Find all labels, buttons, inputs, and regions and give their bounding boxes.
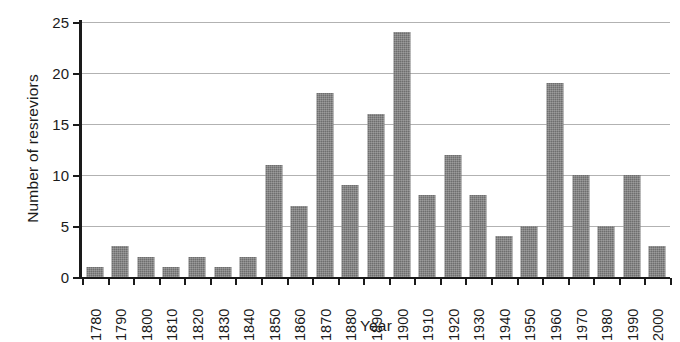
y-axis-title: Number of resreviors [22,6,44,291]
bar [470,195,487,277]
x-axis-title: Year [82,317,670,335]
bar [316,93,333,277]
x-axis-line [79,277,670,279]
bar [623,175,640,277]
bar [112,246,129,277]
bar [163,267,180,277]
y-tick-mark [73,277,80,279]
x-tick-mark [670,278,672,285]
x-tick-mark [465,278,467,285]
x-tick-mark [108,278,110,285]
x-tick-mark [414,278,416,285]
x-tick-mark [210,278,212,285]
x-tick-mark [287,278,289,285]
x-tick-mark [82,278,84,285]
y-tick-mark [73,226,80,228]
x-tick-mark [542,278,544,285]
x-tick-mark [568,278,570,285]
bar-slot [619,22,645,277]
bar-slot [82,22,108,277]
y-tick-label: 25 [9,15,69,30]
x-tick-mark [159,278,161,285]
x-tick-mark [338,278,340,285]
bar-slot [491,22,517,277]
bar [521,226,538,277]
bar [86,267,103,277]
bar-slot [261,22,287,277]
x-tick-mark [517,278,519,285]
bar-slot [542,22,568,277]
bar [367,114,384,277]
y-tick-label: 20 [9,66,69,81]
bar [598,226,615,277]
bar-chart-figure: Number of resreviors 0510152025 17801790… [0,0,680,342]
bar-slot [235,22,261,277]
bar-slot [414,22,440,277]
bar-slot [389,22,415,277]
bar [546,83,563,277]
bar [265,165,282,277]
x-tick-mark [440,278,442,285]
x-tick-mark [184,278,186,285]
bar-slot [312,22,338,277]
bar-slot [184,22,210,277]
bar [342,185,359,277]
bar-slot [159,22,185,277]
plot-area [82,22,670,277]
x-tick-mark [491,278,493,285]
x-tick-mark [389,278,391,285]
bar [649,246,666,277]
bar-slot [517,22,543,277]
x-tick-mark [312,278,314,285]
bar-slot [568,22,594,277]
bar-slot [108,22,134,277]
bar-slot [338,22,364,277]
y-tick-label: 5 [9,219,69,234]
bar [240,257,257,277]
x-tick-mark [363,278,365,285]
bar-slot [287,22,313,277]
bar-slot [363,22,389,277]
y-tick-mark [73,73,80,75]
bar-slot [133,22,159,277]
bar [214,267,231,277]
x-tick-mark [133,278,135,285]
bar [137,257,154,277]
y-tick-mark [73,124,80,126]
bar-slot [465,22,491,277]
y-tick-label: 10 [9,168,69,183]
x-tick-mark [593,278,595,285]
bar-slot [440,22,466,277]
x-tick-mark [261,278,263,285]
bar [393,32,410,277]
bar [189,257,206,277]
y-tick-mark [73,175,80,177]
y-tick-label: 0 [9,270,69,285]
bar [572,175,589,277]
bar-slot [644,22,670,277]
bar [495,236,512,277]
x-tick-mark [235,278,237,285]
x-tick-mark [644,278,646,285]
bar-slot [593,22,619,277]
bar-slot [210,22,236,277]
y-tick-label: 15 [9,117,69,132]
bar [444,155,461,277]
bar [419,195,436,277]
y-tick-mark [73,22,80,24]
x-tick-mark [619,278,621,285]
bar [291,206,308,277]
